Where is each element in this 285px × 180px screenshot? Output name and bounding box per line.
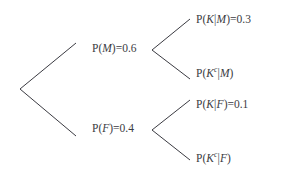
node-kcf-variable: K <box>206 152 214 164</box>
node-label-m: P(M)=0.6 <box>92 43 137 55</box>
branch-root-to-f <box>20 89 76 136</box>
node-label-f: P(F)=0.4 <box>92 123 134 135</box>
node-m-variable: M <box>102 42 112 54</box>
node-label-kc-given-f: P(Kc|F) <box>196 153 231 165</box>
node-kf-condition: F <box>217 98 224 110</box>
node-f-prefix: P( <box>92 122 102 134</box>
node-kcf-prefix: P( <box>196 152 206 164</box>
node-km-value: 0.3 <box>237 13 251 25</box>
branch-f-to-kc-given-f <box>152 130 190 160</box>
node-kcf-suffix: ) <box>227 152 231 164</box>
node-kcm-condition: M <box>220 67 230 79</box>
branch-m-to-k-given-m <box>152 19 190 50</box>
node-kcf-condition: F <box>220 152 227 164</box>
node-label-k-given-f: P(K|F)=0.1 <box>196 99 248 111</box>
node-m-prefix: P( <box>92 42 102 54</box>
node-kcm-prefix: P( <box>196 67 206 79</box>
node-label-kc-given-m: P(Kc|M) <box>196 68 233 80</box>
branch-m-to-kc-given-m <box>152 50 190 79</box>
branch-f-to-k-given-f <box>152 100 190 130</box>
tree-branch-lines <box>0 0 285 180</box>
node-m-value: 0.6 <box>122 42 136 54</box>
node-km-variable: K <box>206 13 214 25</box>
branch-root-to-m <box>20 43 76 89</box>
probability-tree-diagram: P(M)=0.6 P(F)=0.4 P(K|M)=0.3 P(Kc|M) P(K… <box>0 0 285 180</box>
node-km-prefix: P( <box>196 13 206 25</box>
node-km-condition: M <box>217 13 227 25</box>
node-kf-value: 0.1 <box>234 98 248 110</box>
node-f-value: 0.4 <box>120 122 134 134</box>
node-kf-variable: K <box>206 98 214 110</box>
node-label-k-given-m: P(K|M)=0.3 <box>196 14 251 26</box>
node-kcm-variable: K <box>206 67 214 79</box>
node-kcm-suffix: ) <box>230 67 234 79</box>
node-kf-prefix: P( <box>196 98 206 110</box>
